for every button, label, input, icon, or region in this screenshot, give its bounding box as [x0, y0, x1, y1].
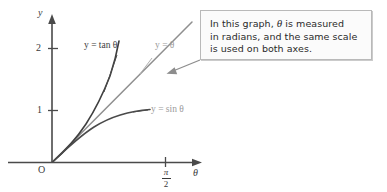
y-tick-label-2: 2: [36, 42, 41, 53]
trig-comparison-figure: y θ O 2 1 π 2 y = tan θ y = θ y = sin θ …: [0, 0, 387, 192]
callout-arrow: [167, 60, 201, 74]
callout-line1-post: is measured: [282, 18, 344, 29]
callout-box: In this graph, θ is measured in radians,…: [200, 10, 372, 60]
callout-text: In this graph, θ is measured in radians,…: [210, 17, 366, 56]
callout-line1-pre: In this graph,: [210, 18, 277, 29]
tan-curve-label: y = tan θ: [84, 40, 117, 50]
callout-line2: in radians, and the same scale: [210, 31, 357, 42]
sin-curve-label: y = sin θ: [151, 104, 184, 114]
origin-label: O: [38, 164, 45, 175]
curve-tangent: [53, 41, 120, 162]
curve-sine: [53, 110, 151, 163]
pi-numerator: π: [159, 168, 173, 177]
x-tick-label-pi-over-2: π 2: [159, 168, 173, 189]
identity-label-leader: [140, 58, 152, 74]
y-axis: [48, 14, 56, 163]
callout-line3: is used on both axes.: [210, 43, 312, 54]
y-tick-marks: [48, 49, 58, 111]
y-tick-label-1: 1: [37, 104, 42, 115]
tan-label-leader: [104, 55, 117, 92]
two-denominator: 2: [159, 180, 173, 189]
y-axis-label: y: [38, 7, 42, 18]
identity-curve-label: y = θ: [155, 40, 174, 50]
x-axis-label: θ: [193, 167, 198, 178]
